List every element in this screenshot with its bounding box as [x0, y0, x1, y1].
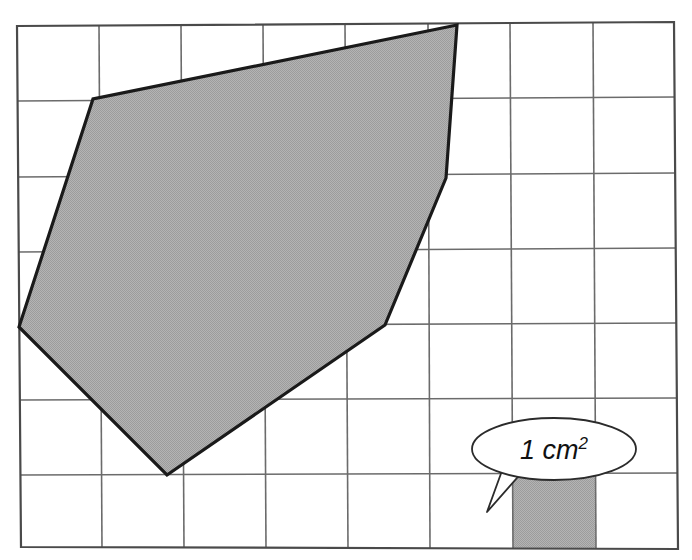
- grid-and-shape-canvas: 1 cm2: [0, 0, 692, 560]
- geometry-figure: 1 cm2: [0, 0, 692, 560]
- unit-square-highlight: [512, 475, 596, 549]
- callout-label-text: 1 cm: [520, 435, 579, 465]
- callout-label: 1 cm2: [520, 434, 589, 465]
- callout-label-superscript: 2: [578, 434, 589, 453]
